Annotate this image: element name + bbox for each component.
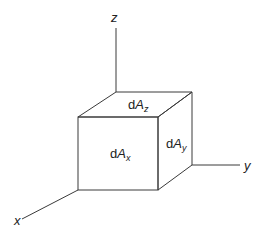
x-axis <box>22 190 78 219</box>
front-face-label: dAx <box>110 146 131 163</box>
top-face-label: dAz <box>128 97 149 114</box>
cube-diagram: z y x dAz dAx dAy <box>0 0 270 235</box>
z-axis-label: z <box>110 10 118 25</box>
y-axis-label: y <box>243 158 252 173</box>
side-face-label: dAy <box>166 136 187 153</box>
x-axis-label: x <box>13 213 21 228</box>
